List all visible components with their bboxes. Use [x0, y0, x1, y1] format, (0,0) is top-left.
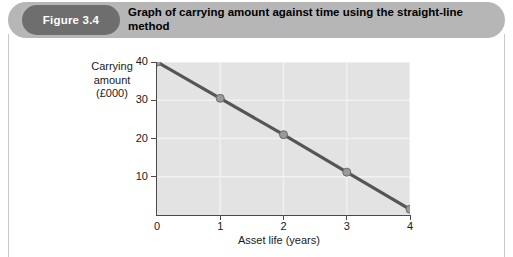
figure-number-label: Figure 3.4 — [43, 14, 99, 26]
data-point-marker — [216, 94, 224, 102]
figure-title: Graph of carrying amount against time us… — [128, 5, 500, 33]
y-axis-title-line: Carrying — [78, 60, 146, 74]
y-tick-label: 20 — [124, 132, 148, 144]
x-tick-label: 1 — [210, 220, 230, 232]
y-axis-title-line: (£000) — [78, 87, 146, 101]
figure-header-band: Figure 3.4 Graph of carrying amount agai… — [8, 2, 505, 38]
x-tick-label: 3 — [337, 220, 357, 232]
y-tick-mark — [151, 100, 157, 101]
data-point-marker — [280, 131, 288, 139]
plot-svg — [157, 62, 410, 215]
y-tick-mark — [151, 62, 157, 63]
figure-card: Figure 3.4 Graph of carrying amount agai… — [0, 0, 513, 257]
x-tick-label: 2 — [274, 220, 294, 232]
y-tick-mark — [151, 176, 157, 177]
y-tick-mark — [151, 138, 157, 139]
x-tick-label: 0 — [147, 220, 167, 232]
y-axis-title-line: amount — [78, 74, 146, 88]
data-point-marker — [406, 205, 410, 213]
chart-region: 10203040 01234 Carryingamount(£000) Asse… — [0, 38, 513, 257]
y-axis-title: Carryingamount(£000) — [78, 60, 146, 101]
x-tick-label: 4 — [400, 220, 420, 232]
figure-number-badge: Figure 3.4 — [22, 5, 120, 35]
y-tick-label: 10 — [124, 170, 148, 182]
plot-area — [157, 62, 410, 215]
x-axis-title: Asset life (years) — [238, 234, 320, 246]
data-point-marker — [343, 168, 351, 176]
